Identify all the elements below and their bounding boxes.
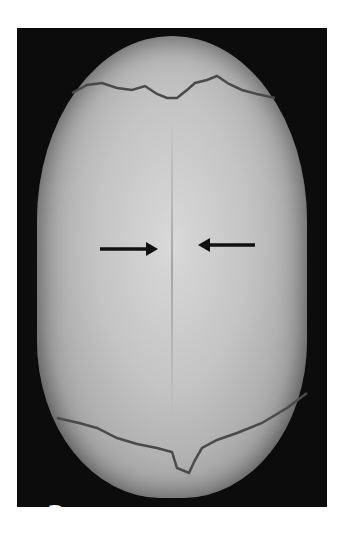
arrow-right-pointing xyxy=(100,242,158,256)
panel-label: a xyxy=(47,498,65,507)
suture-overlay xyxy=(17,28,327,507)
coronal-suture xyxy=(72,76,275,98)
lambdoid-suture xyxy=(57,393,307,473)
figure-frame: a xyxy=(17,28,327,507)
arrow-left-pointing xyxy=(198,238,255,252)
